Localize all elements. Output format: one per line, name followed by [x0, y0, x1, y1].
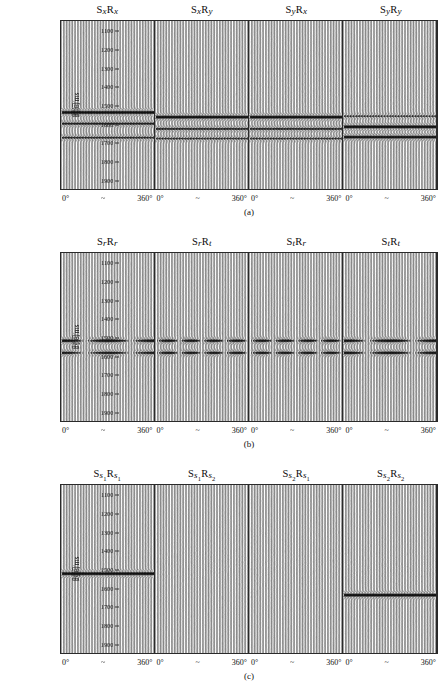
x-tick-mid: ~: [196, 658, 200, 667]
column-title-ss2rs2: Ss2Rs2: [344, 464, 439, 484]
x-tick-start: 0°: [346, 658, 353, 667]
x-tick-mid: ~: [290, 194, 294, 203]
x-tick-mid: ~: [385, 426, 389, 435]
column-title-srrr: SrRr: [60, 232, 155, 252]
subpanel-ss1rs2: [155, 485, 249, 653]
x-tick-mid: ~: [290, 426, 294, 435]
seismic-gather-figure: SxRx SxRy SyRx SyRy 时间/ms110012001300140…: [0, 0, 448, 692]
panel-b: SrRr SrRt StRr StRt 时间/ms110012001300140…: [0, 232, 448, 464]
column-title-strt: StRt: [344, 232, 439, 252]
x-axis-cell: 0°~360°: [155, 654, 250, 670]
x-tick-mid: ~: [290, 658, 294, 667]
x-axis-cell: 0°~360°: [60, 190, 155, 206]
x-tick-start: 0°: [62, 194, 69, 203]
x-axis-cell: 0°~360°: [249, 654, 344, 670]
x-tick-end: 360°: [326, 658, 341, 667]
column-title-strr: StRr: [249, 232, 344, 252]
x-tick-end: 360°: [421, 194, 436, 203]
x-axis-cell: 0°~360°: [344, 654, 439, 670]
x-tick-mid: ~: [196, 194, 200, 203]
subpanel-syrx: [249, 21, 343, 189]
x-tick-mid: ~: [101, 194, 105, 203]
panel-a-caption: (a): [60, 207, 438, 217]
panel-a-titles: SxRx SxRy SyRx SyRy: [60, 0, 438, 20]
subpanel-srrt: [155, 253, 249, 421]
x-tick-end: 360°: [137, 194, 152, 203]
subpanel-sxrx: [61, 21, 155, 189]
subpanel-ss2rs2: [343, 485, 437, 653]
subpanel-sxry: [155, 21, 249, 189]
x-tick-start: 0°: [346, 194, 353, 203]
x-tick-end: 360°: [232, 194, 247, 203]
x-axis-cell: 0°~360°: [344, 422, 439, 438]
x-axis-cell: 0°~360°: [155, 422, 250, 438]
subpanel-ss2rs1: [249, 485, 343, 653]
x-tick-start: 0°: [157, 426, 164, 435]
x-axis-cell: 0°~360°: [249, 422, 344, 438]
x-axis-cell: 0°~360°: [60, 654, 155, 670]
panel-a-xaxis: 0°~360°0°~360°0°~360°0°~360°: [60, 190, 438, 206]
x-tick-mid: ~: [196, 426, 200, 435]
column-title-syrx: SyRx: [249, 0, 344, 20]
subpanel-strt: [343, 253, 437, 421]
x-tick-end: 360°: [421, 658, 436, 667]
column-title-sxry: SxRy: [155, 0, 250, 20]
panel-c-xaxis: 0°~360°0°~360°0°~360°0°~360°: [60, 654, 438, 670]
panel-b-caption: (b): [60, 439, 438, 449]
panel-a-plot: 时间/ms11001200130014001500160017001800190…: [60, 20, 438, 190]
x-tick-start: 0°: [62, 426, 69, 435]
subpanel-srrr: [61, 253, 155, 421]
panel-c-plot: 时间/ms11001200130014001500160017001800190…: [60, 484, 438, 654]
x-axis-cell: 0°~360°: [155, 190, 250, 206]
x-tick-start: 0°: [157, 194, 164, 203]
column-title-syry: SyRy: [344, 0, 439, 20]
x-axis-cell: 0°~360°: [60, 422, 155, 438]
x-axis-cell: 0°~360°: [344, 190, 439, 206]
panel-c-titles: Ss1Rs1 Ss1Rs2 Ss2Rs1 Ss2Rs2: [60, 464, 438, 484]
x-tick-end: 360°: [137, 658, 152, 667]
x-tick-mid: ~: [385, 658, 389, 667]
panel-c-caption: (c): [60, 671, 438, 681]
panel-a: SxRx SxRy SyRx SyRy 时间/ms110012001300140…: [0, 0, 448, 232]
x-tick-end: 360°: [137, 426, 152, 435]
x-tick-end: 360°: [326, 194, 341, 203]
subpanel-strr: [249, 253, 343, 421]
subpanel-syry: [343, 21, 437, 189]
x-tick-mid: ~: [385, 194, 389, 203]
panel-b-xaxis: 0°~360°0°~360°0°~360°0°~360°: [60, 422, 438, 438]
x-tick-end: 360°: [421, 426, 436, 435]
panel-c: Ss1Rs1 Ss1Rs2 Ss2Rs1 Ss2Rs2 时间/ms1100120…: [0, 464, 448, 692]
x-tick-start: 0°: [251, 658, 258, 667]
x-tick-start: 0°: [157, 658, 164, 667]
subpanel-ss1rs1: [61, 485, 155, 653]
column-title-ss1rs1: Ss1Rs1: [60, 464, 155, 484]
column-title-srrt: SrRt: [155, 232, 250, 252]
column-title-ss1rs2: Ss1Rs2: [155, 464, 250, 484]
x-tick-start: 0°: [346, 426, 353, 435]
x-tick-mid: ~: [101, 426, 105, 435]
panel-b-titles: SrRr SrRt StRr StRt: [60, 232, 438, 252]
x-tick-end: 360°: [232, 426, 247, 435]
x-tick-end: 360°: [326, 426, 341, 435]
x-tick-start: 0°: [251, 194, 258, 203]
x-tick-start: 0°: [62, 658, 69, 667]
x-tick-start: 0°: [251, 426, 258, 435]
x-tick-end: 360°: [232, 658, 247, 667]
x-tick-mid: ~: [101, 658, 105, 667]
x-axis-cell: 0°~360°: [249, 190, 344, 206]
column-title-sxrx: SxRx: [60, 0, 155, 20]
column-title-ss2rs1: Ss2Rs1: [249, 464, 344, 484]
panel-b-plot: 时间/ms11001200130014001500160017001800190…: [60, 252, 438, 422]
